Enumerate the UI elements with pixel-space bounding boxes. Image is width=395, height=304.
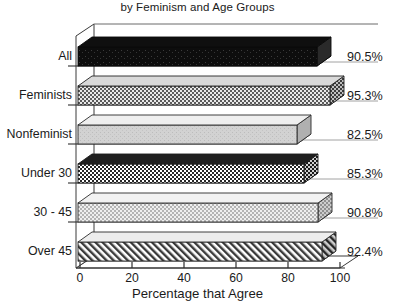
x-tick-40: 40 <box>177 271 191 285</box>
x-axis-title: Percentage that Agree <box>0 286 395 301</box>
x-axis-tick-labels: 0 20 40 60 80 100 <box>0 0 395 304</box>
x-tick-80: 80 <box>281 271 295 285</box>
bar-chart: by Feminism and Age Groups <box>0 0 395 304</box>
x-tick-20: 20 <box>125 271 139 285</box>
x-tick-60: 60 <box>229 271 243 285</box>
x-tick-100: 100 <box>330 271 350 285</box>
x-tick-0: 0 <box>77 271 84 285</box>
